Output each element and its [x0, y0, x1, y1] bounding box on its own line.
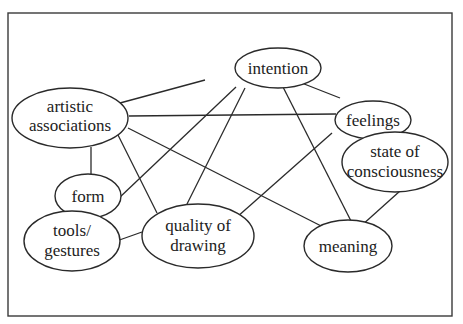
node-meaning: meaning [304, 220, 392, 272]
edge-intention-artistic-associations [120, 80, 205, 103]
node-state-of-consciousness: state of consciousness [342, 132, 448, 192]
node-quality-of-drawing-label-line1: quality of [165, 216, 231, 235]
edge-state-of-consciousness-meaning [361, 191, 400, 226]
node-quality-of-drawing: quality of drawing [142, 204, 254, 268]
node-intention-label: intention [248, 59, 309, 78]
node-tools-gestures-label-line2: gestures [44, 241, 100, 260]
edge-artistic-associations-quality-of-drawing [118, 135, 157, 213]
node-feelings-label: feelings [346, 111, 400, 130]
edge-feelings-quality-of-drawing [228, 133, 332, 225]
concept-diagram: intention artistic associations feelings… [0, 0, 463, 324]
node-form-label: form [71, 187, 104, 206]
node-artistic-associations-label-line1: artistic [47, 97, 94, 116]
node-tools-gestures-label-line1: tools/ [53, 221, 91, 240]
node-state-of-consciousness-label-line1: state of [370, 142, 420, 161]
node-artistic-associations: artistic associations [12, 88, 128, 148]
node-meaning-label: meaning [319, 237, 378, 256]
node-intention: intention [235, 48, 321, 88]
node-state-of-consciousness-label-line2: consciousness [347, 162, 443, 181]
node-artistic-associations-label-line2: associations [29, 116, 111, 135]
edge-intention-meaning [283, 87, 351, 221]
node-tools-gestures: tools/ gestures [24, 211, 120, 271]
node-quality-of-drawing-label-line2: drawing [170, 236, 226, 255]
